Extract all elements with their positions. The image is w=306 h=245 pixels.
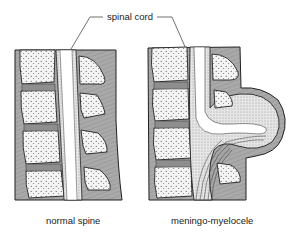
spine-diagram: [0, 0, 306, 245]
meningo-myelocele-caption: meningo-myelocele: [171, 215, 253, 226]
meningo-myelocele-panel: [148, 47, 285, 200]
normal-spine-caption: normal spine: [46, 215, 100, 226]
normal-spine-panel: [15, 50, 122, 200]
spinal-cord-label: spinal cord: [107, 11, 153, 22]
